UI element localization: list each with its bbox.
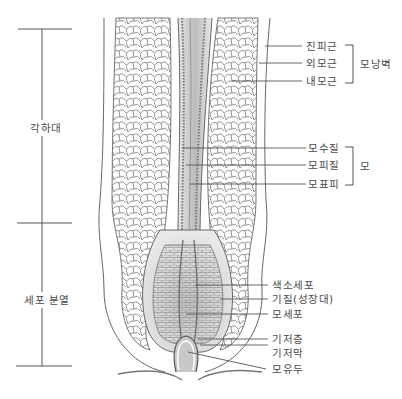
hair-bulb: [143, 230, 233, 352]
label-melanocyte: 색소세포: [272, 279, 314, 291]
scale-bar: [16, 29, 72, 366]
label-inner-root-sheath: 내모근: [306, 75, 338, 87]
hair-shaft: [178, 18, 212, 240]
label-outer-root-sheath: 외모근: [306, 57, 338, 69]
label-hair-cell: 모세포: [272, 308, 304, 320]
label-cuticle: 모표피: [308, 178, 340, 190]
label-basement-membrane: 기저막: [272, 347, 304, 359]
hair-follicle-illustration: [0, 0, 402, 399]
label-keratinization-zone: 각하대: [30, 120, 62, 136]
label-follicle-wall-group: 모낭벽: [360, 58, 392, 70]
label-matrix: 기질(성장대): [272, 293, 334, 305]
label-cortex: 모피질: [308, 159, 340, 171]
label-basal-layer: 기저층: [272, 333, 304, 345]
label-dermal-papilla: 모유두: [272, 363, 304, 375]
label-connective-tissue-sheath: 진피근: [306, 40, 338, 52]
label-cell-division-zone: 세포 분열: [24, 292, 70, 308]
label-medulla: 모수질: [308, 142, 340, 154]
label-hair-group: 모: [360, 160, 371, 172]
